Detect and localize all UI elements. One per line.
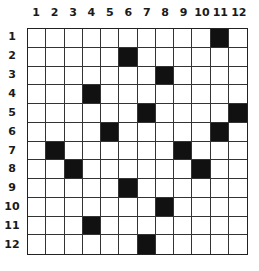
- grid-cell[interactable]: [192, 217, 210, 236]
- grid-cell-filled[interactable]: [101, 123, 119, 142]
- grid-cell[interactable]: [174, 123, 192, 142]
- grid-cell[interactable]: [174, 160, 192, 179]
- grid-cell[interactable]: [28, 198, 46, 217]
- grid-cell-filled[interactable]: [65, 160, 83, 179]
- grid-cell-filled[interactable]: [138, 235, 156, 254]
- grid-cell[interactable]: [229, 198, 247, 217]
- grid-cell[interactable]: [83, 198, 101, 217]
- grid-cell[interactable]: [192, 48, 210, 67]
- grid-cell[interactable]: [229, 179, 247, 198]
- grid-cell[interactable]: [101, 67, 119, 86]
- grid-cell[interactable]: [28, 29, 46, 48]
- grid-cell[interactable]: [28, 160, 46, 179]
- grid-cell[interactable]: [101, 104, 119, 123]
- grid-cell[interactable]: [156, 235, 174, 254]
- grid-cell[interactable]: [192, 104, 210, 123]
- grid-cell[interactable]: [229, 123, 247, 142]
- grid-cell[interactable]: [101, 29, 119, 48]
- grid-cell[interactable]: [229, 217, 247, 236]
- grid-cell[interactable]: [119, 198, 137, 217]
- grid-cell[interactable]: [101, 198, 119, 217]
- grid-cell[interactable]: [138, 160, 156, 179]
- grid-cell[interactable]: [119, 104, 137, 123]
- grid-cell[interactable]: [229, 142, 247, 161]
- grid-cell[interactable]: [174, 198, 192, 217]
- grid-cell-filled[interactable]: [229, 104, 247, 123]
- grid-cell[interactable]: [101, 160, 119, 179]
- grid-cell[interactable]: [65, 85, 83, 104]
- grid-cell[interactable]: [192, 235, 210, 254]
- grid-cell[interactable]: [156, 160, 174, 179]
- grid-cell[interactable]: [174, 179, 192, 198]
- grid-cell[interactable]: [46, 85, 64, 104]
- grid-cell[interactable]: [46, 179, 64, 198]
- grid-cell[interactable]: [65, 67, 83, 86]
- grid-cell-filled[interactable]: [156, 67, 174, 86]
- grid-cell[interactable]: [174, 104, 192, 123]
- grid-cell[interactable]: [211, 85, 229, 104]
- grid-cell-filled[interactable]: [46, 142, 64, 161]
- grid-cell[interactable]: [211, 48, 229, 67]
- grid-cell[interactable]: [138, 179, 156, 198]
- grid-cell[interactable]: [65, 217, 83, 236]
- grid-cell[interactable]: [65, 142, 83, 161]
- grid-cell[interactable]: [28, 104, 46, 123]
- grid-cell[interactable]: [65, 198, 83, 217]
- grid-cell[interactable]: [229, 85, 247, 104]
- grid-cell[interactable]: [46, 29, 64, 48]
- grid-cell[interactable]: [174, 67, 192, 86]
- grid-cell-filled[interactable]: [83, 85, 101, 104]
- grid-cell[interactable]: [192, 67, 210, 86]
- grid-cell[interactable]: [28, 142, 46, 161]
- grid-cell[interactable]: [192, 142, 210, 161]
- grid-cell[interactable]: [192, 29, 210, 48]
- grid-cell[interactable]: [174, 217, 192, 236]
- grid-cell[interactable]: [174, 85, 192, 104]
- grid-cell[interactable]: [138, 67, 156, 86]
- grid-cell[interactable]: [28, 123, 46, 142]
- grid-cell[interactable]: [119, 29, 137, 48]
- grid-cell[interactable]: [28, 179, 46, 198]
- grid-cell[interactable]: [46, 123, 64, 142]
- grid-cell[interactable]: [83, 104, 101, 123]
- grid-cell[interactable]: [192, 123, 210, 142]
- grid-cell[interactable]: [156, 179, 174, 198]
- grid-cell[interactable]: [65, 48, 83, 67]
- grid-cell-filled[interactable]: [83, 217, 101, 236]
- grid-cell[interactable]: [229, 235, 247, 254]
- grid-cell[interactable]: [119, 160, 137, 179]
- grid-cell[interactable]: [83, 160, 101, 179]
- grid-cell[interactable]: [192, 198, 210, 217]
- grid-cell[interactable]: [46, 217, 64, 236]
- grid-cell[interactable]: [138, 198, 156, 217]
- grid-cell[interactable]: [229, 67, 247, 86]
- grid-cell[interactable]: [46, 160, 64, 179]
- grid-cell[interactable]: [83, 48, 101, 67]
- grid-cell[interactable]: [211, 142, 229, 161]
- grid-cell[interactable]: [156, 29, 174, 48]
- grid-cell[interactable]: [138, 85, 156, 104]
- grid-cell[interactable]: [156, 217, 174, 236]
- grid-cell[interactable]: [174, 29, 192, 48]
- grid-cell-filled[interactable]: [211, 29, 229, 48]
- grid-cell[interactable]: [211, 67, 229, 86]
- grid-cell-filled[interactable]: [138, 104, 156, 123]
- grid-cell[interactable]: [46, 67, 64, 86]
- grid-cell[interactable]: [138, 217, 156, 236]
- grid-cell[interactable]: [138, 123, 156, 142]
- grid-cell[interactable]: [101, 85, 119, 104]
- grid-cell[interactable]: [28, 67, 46, 86]
- grid-cell[interactable]: [119, 67, 137, 86]
- grid-cell-filled[interactable]: [192, 160, 210, 179]
- grid-cell[interactable]: [101, 235, 119, 254]
- grid-cell[interactable]: [229, 29, 247, 48]
- grid-cell[interactable]: [28, 217, 46, 236]
- grid-cell[interactable]: [211, 235, 229, 254]
- grid-cell[interactable]: [65, 123, 83, 142]
- grid-cell[interactable]: [83, 67, 101, 86]
- grid-cell[interactable]: [65, 29, 83, 48]
- grid-cell-filled[interactable]: [119, 179, 137, 198]
- grid-cell[interactable]: [65, 179, 83, 198]
- grid-cell[interactable]: [119, 123, 137, 142]
- grid-cell[interactable]: [156, 104, 174, 123]
